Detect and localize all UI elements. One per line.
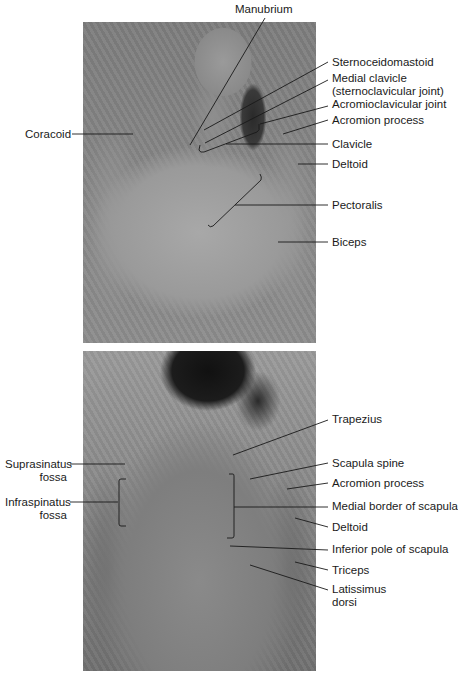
label-medial-clavicle: Medial clavicle (sternoclavicular joint) bbox=[332, 72, 444, 98]
label-infraspinatus-line1: Infraspinatus bbox=[5, 496, 67, 509]
label-sternoceidomastoid: Sternoceidomastoid bbox=[332, 56, 434, 69]
posterior-shoulder-photo bbox=[83, 351, 316, 671]
label-medial-clavicle-line2: (sternoclavicular joint) bbox=[332, 85, 444, 98]
label-coracoid: Coracoid bbox=[25, 128, 71, 141]
label-medial-clavicle-line1: Medial clavicle bbox=[332, 72, 444, 85]
label-suprasinatus-fossa: Suprasinatus fossa bbox=[5, 458, 67, 484]
anterior-shoulder-photo bbox=[83, 22, 316, 343]
label-deltoid-posterior: Deltoid bbox=[332, 521, 368, 534]
label-triceps: Triceps bbox=[332, 564, 369, 577]
label-trapezius: Trapezius bbox=[332, 413, 382, 426]
label-suprasinatus-line1: Suprasinatus bbox=[5, 458, 67, 471]
label-infraspinatus-line2: fossa bbox=[5, 509, 67, 522]
label-clavicle: Clavicle bbox=[332, 138, 372, 151]
label-latissimus-dorsi: Latissimus dorsi bbox=[332, 583, 386, 609]
label-scapula-spine: Scapula spine bbox=[332, 457, 404, 470]
label-latissimus-line1: Latissimus bbox=[332, 583, 386, 596]
label-deltoid-anterior: Deltoid bbox=[332, 158, 368, 171]
label-latissimus-line2: dorsi bbox=[332, 596, 386, 609]
label-manubrium: Manubrium bbox=[235, 3, 293, 16]
label-suprasinatus-line2: fossa bbox=[5, 471, 67, 484]
label-acromion-process-anterior: Acromion process bbox=[332, 114, 424, 127]
label-acromion-process-posterior: Acromion process bbox=[332, 477, 424, 490]
label-infraspinatus-fossa: Infraspinatus fossa bbox=[5, 496, 67, 522]
label-inferior-pole-of-scapula: Inferior pole of scapula bbox=[332, 543, 448, 556]
label-acromioclavicular-joint: Acromioclavicular joint bbox=[332, 98, 446, 111]
label-pectoralis: Pectoralis bbox=[332, 199, 383, 212]
label-medial-border-of-scapula: Medial border of scapula bbox=[332, 500, 458, 513]
label-biceps: Biceps bbox=[332, 236, 367, 249]
